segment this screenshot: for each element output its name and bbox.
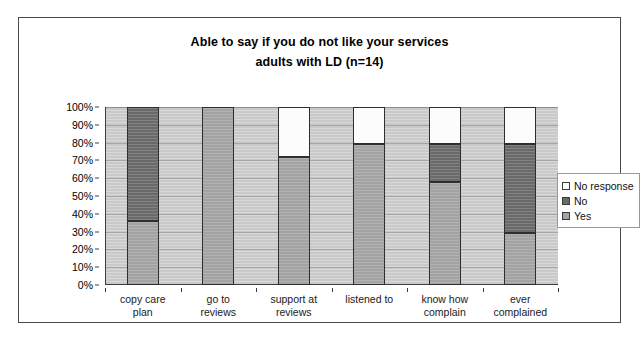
stacked-bar[interactable] <box>429 107 461 285</box>
x-axis-category-label-line-2: plan <box>105 306 181 319</box>
x-axis-category-label: copy careplan <box>105 293 181 319</box>
x-axis-tick-mark <box>181 288 182 292</box>
y-axis-tick-mark <box>95 196 99 197</box>
legend-item[interactable]: Yes <box>562 208 634 223</box>
bar-group[interactable] <box>181 107 257 285</box>
legend-item[interactable]: No <box>562 193 634 208</box>
bar-group[interactable] <box>256 107 332 285</box>
bar-segment-texture <box>505 108 535 143</box>
bar-segment-yes[interactable] <box>202 107 234 285</box>
chart-title-line-2: adults with LD (n=14) <box>19 52 620 72</box>
stacked-bar[interactable] <box>278 107 310 285</box>
chart-title-line-1: Able to say if you do not like your serv… <box>191 35 449 49</box>
legend-label: No response <box>574 180 634 192</box>
x-axis-category-label: listened to <box>332 293 408 306</box>
bar-segment-no-response[interactable] <box>278 107 310 157</box>
y-axis-tick-label: 60% <box>72 172 93 184</box>
y-axis: 100%90%80%70%60%50%40%30%20%10%0% <box>53 107 99 285</box>
chart-title: Able to say if you do not like your serv… <box>19 32 620 72</box>
stacked-bar[interactable] <box>353 107 385 285</box>
y-axis-tick-label: 20% <box>72 243 93 255</box>
x-axis-category-label-line-2: complain <box>407 306 483 319</box>
bar-segment-no-response[interactable] <box>429 107 461 144</box>
bar-segment-no[interactable] <box>127 107 159 221</box>
y-axis-tick-label: 30% <box>72 226 93 238</box>
bar-group[interactable] <box>105 107 181 285</box>
legend-swatch-icon <box>562 212 570 220</box>
bar-segment-texture <box>354 108 384 143</box>
legend-label: Yes <box>574 210 591 222</box>
y-axis-tick-label: 40% <box>72 208 93 220</box>
y-axis-tick-mark <box>95 142 99 143</box>
y-axis-tick-label: 10% <box>72 261 93 273</box>
y-axis-tick-mark <box>95 249 99 250</box>
bar-segment-no-response[interactable] <box>504 107 536 144</box>
x-axis-category-label-line-1: know how <box>407 293 483 306</box>
y-axis-tick-mark <box>95 107 99 108</box>
y-axis-tick-mark <box>95 213 99 214</box>
chart-frame: Able to say if you do not like your serv… <box>18 17 621 323</box>
bar-group[interactable] <box>332 107 408 285</box>
bar-segment-texture <box>505 145 535 232</box>
x-axis-tick-mark <box>558 288 559 292</box>
x-axis-category-label-line-2: complained <box>483 306 559 319</box>
y-axis-tick-mark <box>95 124 99 125</box>
x-axis-category-label-line-1: support at <box>256 293 332 306</box>
x-axis-category-label-line-1: ever <box>483 293 559 306</box>
y-axis-tick-label: 0% <box>78 279 93 291</box>
x-axis-category-label-line-2: reviews <box>256 306 332 319</box>
plot-area-wrapper <box>105 107 558 285</box>
x-axis-tick-mark <box>256 288 257 292</box>
bar-segment-yes[interactable] <box>127 221 159 285</box>
bar-segment-no[interactable] <box>504 144 536 233</box>
x-axis-category-label-line-1: go to <box>181 293 257 306</box>
x-axis-category-label-line-1: listened to <box>332 293 408 306</box>
legend-swatch-icon <box>562 197 570 205</box>
y-axis-tick-label: 80% <box>72 137 93 149</box>
legend-swatch-icon <box>562 182 570 190</box>
bar-segment-texture <box>430 145 460 180</box>
y-axis-tick-mark <box>95 285 99 286</box>
bar-segment-yes[interactable] <box>429 182 461 285</box>
bar-segment-texture <box>203 108 233 284</box>
bar-segment-texture <box>354 145 384 284</box>
x-axis-category-label: know howcomplain <box>407 293 483 319</box>
bar-group[interactable] <box>483 107 559 285</box>
bar-segment-texture <box>430 108 460 143</box>
stacked-bar[interactable] <box>504 107 536 285</box>
y-axis-tick-mark <box>95 231 99 232</box>
legend-item[interactable]: No response <box>562 178 634 193</box>
bar-segment-texture <box>279 108 309 156</box>
stacked-bar[interactable] <box>127 107 159 285</box>
x-axis: copy careplango toreviewssupport atrevie… <box>105 288 558 332</box>
x-axis-tick-mark <box>407 288 408 292</box>
x-axis-tick-mark <box>105 288 106 292</box>
x-axis-category-label: evercomplained <box>483 293 559 319</box>
y-axis-tick-label: 90% <box>72 119 93 131</box>
y-axis-tick-label: 70% <box>72 154 93 166</box>
bar-segment-no-response[interactable] <box>353 107 385 144</box>
bar-segment-texture <box>128 222 158 284</box>
x-axis-tick-mark <box>332 288 333 292</box>
y-axis-tick-mark <box>95 267 99 268</box>
x-axis-tick-mark <box>483 288 484 292</box>
y-axis-tick-mark <box>95 160 99 161</box>
bar-segment-texture <box>279 158 309 284</box>
y-axis-tick-label: 50% <box>72 190 93 202</box>
x-axis-category-label-line-2: reviews <box>181 306 257 319</box>
bar-segment-yes[interactable] <box>278 157 310 285</box>
bar-group[interactable] <box>407 107 483 285</box>
chart-legend: No responseNoYes <box>557 173 640 228</box>
bar-segment-no[interactable] <box>429 144 461 181</box>
legend-label: No <box>574 195 587 207</box>
x-axis-category-label: support atreviews <box>256 293 332 319</box>
stacked-bar[interactable] <box>202 107 234 285</box>
x-axis-category-label: go toreviews <box>181 293 257 319</box>
y-axis-tick-mark <box>95 178 99 179</box>
bar-segment-yes[interactable] <box>504 233 536 285</box>
x-axis-category-label-line-1: copy care <box>105 293 181 306</box>
bar-segment-yes[interactable] <box>353 144 385 285</box>
bar-segment-texture <box>430 183 460 284</box>
bar-segment-texture <box>505 234 535 284</box>
bar-segment-texture <box>128 108 158 220</box>
